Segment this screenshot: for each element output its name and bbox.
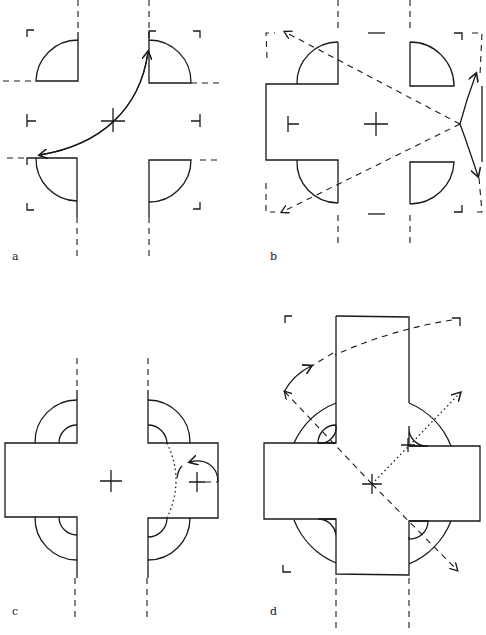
panel-c-drawing [5,358,218,622]
figure-canvas [0,0,486,635]
panel-a-drawing [3,0,222,258]
panel-label-c: c [12,605,18,618]
panel-label-a: a [12,250,19,263]
panel-label-b: b [270,250,277,263]
panel-d-drawing [264,316,480,630]
panel-label-d: d [270,605,277,618]
panel-b-drawing [266,0,482,248]
